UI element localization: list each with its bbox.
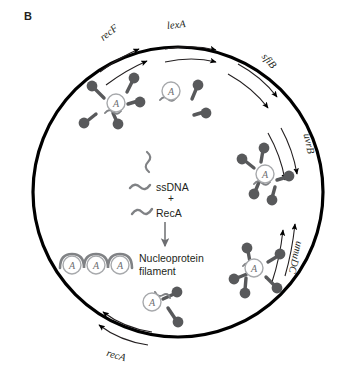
svg-text:A: A <box>68 260 76 271</box>
svg-text:A: A <box>116 260 124 271</box>
filament-subunits: A A A <box>63 256 129 274</box>
recA-subunit-label: A <box>167 86 175 97</box>
gene-label-lexA: lexA <box>166 18 186 31</box>
nucleoprotein-filament-label-line1: Nucleoprotein <box>139 252 204 264</box>
svg-text:A: A <box>92 260 100 271</box>
ssDNA-label: ssDNA <box>156 181 189 193</box>
figure-panel: B <box>0 0 343 380</box>
recA-subunit-label: A <box>250 263 258 274</box>
plus-sign: + <box>168 193 174 204</box>
nucleoprotein-filament: A A A <box>60 254 132 274</box>
recA-subunit-label: A <box>261 169 269 180</box>
recA-subunit-label: A <box>112 98 120 109</box>
nucleoprotein-filament-label-line2: filament <box>139 265 176 277</box>
recA-label: RecA <box>156 207 182 219</box>
recA-subunit-label: A <box>148 297 156 308</box>
